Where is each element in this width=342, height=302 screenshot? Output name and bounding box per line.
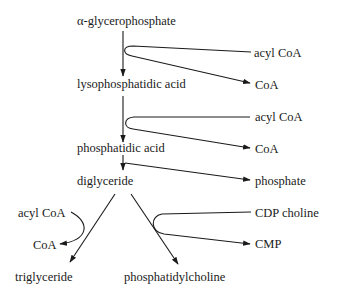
node-phosphatidic-acid: phosphatidic acid [77,141,166,155]
branch-phosphate [125,163,250,180]
arrow-step4 [70,194,115,262]
node-triglyceride: triglyceride [15,270,73,284]
label-cmp: CMP [255,237,281,251]
cofactor-curve-step5 [153,212,251,244]
label-coa-3: CoA [33,238,57,252]
label-acyl-coa-2: acyl CoA [255,110,303,124]
node-glycerophosphate: α-glycerophosphate [77,14,176,28]
node-phosphatidylcholine: phosphatidylcholine [124,270,226,284]
node-lysophosphatidic-acid: lysophosphatidic acid [77,77,186,91]
label-acyl-coa-1: acyl CoA [254,46,302,60]
label-coa-2: CoA [255,142,279,156]
node-diglyceride: diglyceride [77,174,134,188]
label-cdp-choline: CDP choline [255,206,319,220]
pathway-diagram: α-glycerophosphate lysophosphatidic acid… [0,0,342,302]
label-phosphate: phosphate [255,174,306,188]
label-acyl-coa-3: acyl CoA [18,206,66,220]
label-coa-1: CoA [255,78,279,92]
